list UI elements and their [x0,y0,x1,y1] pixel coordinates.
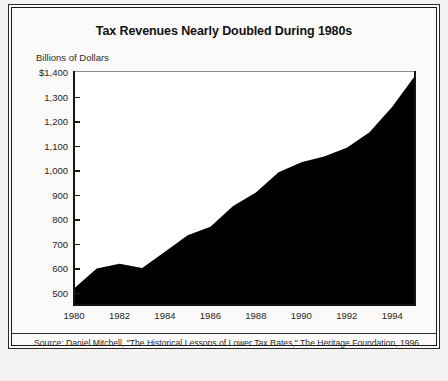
y-axis-tick-mark [74,293,80,295]
chart-title: Tax Revenues Nearly Doubled During 1980s [11,24,437,38]
y-axis-tick-label: 500 [52,287,68,298]
y-axis-tick-mark [74,219,80,221]
y-axis-tick-mark [74,170,80,172]
chart-figure: Tax Revenues Nearly Doubled During 1980s… [0,0,448,381]
x-axis-line [73,304,416,306]
y-axis-line [73,71,75,306]
plot-right-edge-line [414,71,416,306]
y-axis-tick-mark [74,97,80,99]
area-series-total-federal-tax-revenues [74,72,415,305]
y-axis-tick-label: 1,200 [44,116,68,127]
y-axis-tick-mark [74,146,80,148]
footnote-divider [12,333,436,334]
y-axis-tick-label: 1,300 [44,91,68,102]
x-axis-tick-label: 1984 [154,310,175,321]
x-axis-tick-label: 1992 [336,310,357,321]
y-axis-tick-mark [74,268,80,270]
x-axis-tick-label: 1986 [200,310,221,321]
x-axis-tick-label: 1980 [63,310,84,321]
x-axis-tick-label: 1982 [109,310,130,321]
y-axis-tick-label: 600 [52,263,68,274]
y-axis-tick-mark [74,244,80,246]
y-axis-tick-mark [74,121,80,123]
x-axis-tick-label: 1994 [382,310,403,321]
y-axis-tick-label: 700 [52,238,68,249]
y-axis-tick-label: $1,400 [39,67,68,78]
y-axis-tick-label: 800 [52,214,68,225]
y-axis-tick-labels: $1,4001,3001,2001,1001,00090080070060050… [0,0,68,381]
x-axis-tick-label: 1990 [291,310,312,321]
y-axis-tick-label: 900 [52,189,68,200]
y-axis-tick-label: 1,100 [44,140,68,151]
y-axis-tick-mark [74,195,80,197]
x-axis-tick-label: 1988 [245,310,266,321]
source-note: Source: Daniel Mitchell, "The Historical… [34,338,421,348]
y-axis-tick-label: 1,000 [44,165,68,176]
